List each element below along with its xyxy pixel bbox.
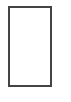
canvas bbox=[0, 0, 71, 102]
rectangle-outline bbox=[8, 6, 52, 87]
